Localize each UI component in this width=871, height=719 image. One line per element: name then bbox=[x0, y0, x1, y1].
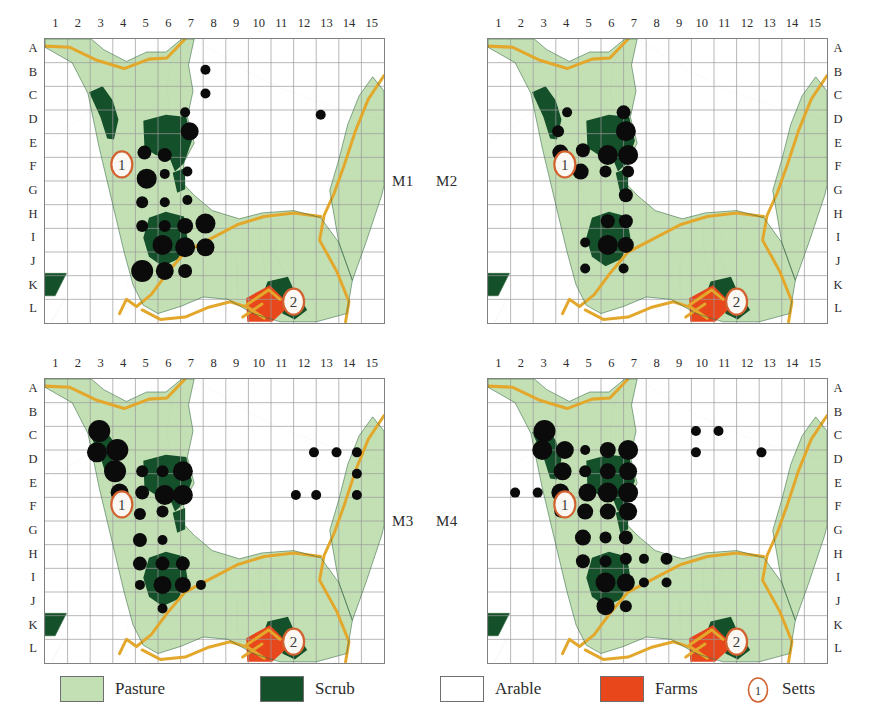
column-label: 13 bbox=[759, 356, 781, 371]
map-canvas: 12 bbox=[488, 379, 827, 663]
legend-label-arable: Arable bbox=[495, 679, 541, 699]
row-label: D bbox=[831, 452, 845, 467]
activity-dot bbox=[619, 188, 633, 202]
column-label: 6 bbox=[157, 16, 179, 31]
pasture-area bbox=[45, 379, 352, 662]
activity-dot bbox=[662, 578, 672, 588]
column-label: 12 bbox=[736, 356, 758, 371]
column-label: 13 bbox=[759, 16, 781, 31]
row-label: K bbox=[26, 278, 40, 293]
activity-dot bbox=[104, 460, 126, 482]
activity-dot bbox=[352, 469, 362, 479]
legend-label-pasture: Pasture bbox=[115, 679, 165, 699]
activity-dot bbox=[136, 465, 148, 477]
row-label: B bbox=[831, 405, 845, 420]
scrub-area bbox=[45, 273, 66, 295]
activity-dot bbox=[534, 420, 556, 442]
legend-label-farms: Farms bbox=[655, 679, 698, 699]
activity-dot bbox=[533, 488, 543, 498]
sett-number: 2 bbox=[733, 294, 741, 310]
legend-swatch-arable bbox=[440, 676, 484, 702]
column-label: 11 bbox=[713, 356, 735, 371]
row-label: E bbox=[26, 476, 40, 491]
column-label: 10 bbox=[248, 16, 270, 31]
activity-dot bbox=[176, 557, 190, 571]
legend-item-setts: 1Setts bbox=[745, 674, 815, 704]
activity-dot bbox=[691, 426, 701, 436]
column-label: 9 bbox=[668, 356, 690, 371]
activity-dot bbox=[135, 486, 149, 500]
column-label: 12 bbox=[736, 16, 758, 31]
pasture-area bbox=[45, 39, 352, 322]
activity-dot bbox=[580, 445, 590, 455]
column-label: 2 bbox=[510, 16, 532, 31]
row-label: D bbox=[26, 112, 40, 127]
activity-dot bbox=[600, 463, 616, 479]
activity-dot bbox=[156, 262, 174, 280]
activity-dot bbox=[598, 235, 618, 255]
column-label: 4 bbox=[112, 16, 134, 31]
column-label: 5 bbox=[135, 356, 157, 371]
activity-dot bbox=[157, 465, 169, 477]
activity-dot bbox=[552, 125, 564, 137]
column-label: 11 bbox=[713, 16, 735, 31]
column-label: 9 bbox=[225, 356, 247, 371]
column-label: 7 bbox=[623, 16, 645, 31]
column-label: 1 bbox=[487, 16, 509, 31]
legend-item-arable: Arable bbox=[440, 674, 541, 704]
activity-dot bbox=[600, 504, 616, 520]
activity-dot bbox=[639, 554, 649, 564]
field-boundary bbox=[495, 636, 510, 662]
row-label: L bbox=[831, 301, 845, 316]
column-label: 7 bbox=[623, 356, 645, 371]
legend-item-pasture: Pasture bbox=[60, 674, 165, 704]
column-label: 1 bbox=[44, 16, 66, 31]
row-label: E bbox=[831, 136, 845, 151]
pasture-area bbox=[488, 39, 795, 322]
panel-grid: 123456789101112131415ABCDEFGHIJKLM112123… bbox=[0, 0, 871, 660]
activity-dot bbox=[182, 195, 192, 205]
row-label: B bbox=[831, 65, 845, 80]
sett-number: 1 bbox=[118, 157, 126, 173]
field-boundary bbox=[52, 636, 67, 662]
activity-dot bbox=[617, 105, 631, 119]
map-frame: 12 bbox=[44, 38, 385, 324]
column-label: 9 bbox=[668, 16, 690, 31]
row-label: L bbox=[26, 301, 40, 316]
row-label: C bbox=[831, 88, 845, 103]
activity-dot bbox=[158, 148, 172, 162]
row-label: F bbox=[26, 499, 40, 514]
column-label: 7 bbox=[180, 356, 202, 371]
activity-dot bbox=[576, 143, 590, 157]
column-label: 1 bbox=[44, 356, 66, 371]
legend-swatch-pasture bbox=[60, 676, 104, 702]
column-label: 10 bbox=[691, 356, 713, 371]
row-label: K bbox=[831, 618, 845, 633]
activity-dot bbox=[156, 557, 170, 571]
activity-dot bbox=[175, 577, 191, 593]
activity-dot bbox=[181, 122, 199, 140]
row-label: E bbox=[831, 476, 845, 491]
activity-dot bbox=[195, 214, 215, 234]
activity-dot bbox=[332, 447, 342, 457]
activity-dot bbox=[639, 578, 649, 588]
activity-dot bbox=[311, 490, 321, 500]
map-canvas: 12 bbox=[488, 39, 827, 323]
activity-dot bbox=[196, 238, 214, 256]
column-label: 3 bbox=[533, 356, 555, 371]
activity-dot bbox=[661, 553, 673, 565]
activity-dot bbox=[136, 220, 148, 232]
row-label: F bbox=[831, 499, 845, 514]
row-label: G bbox=[26, 183, 40, 198]
activity-dot bbox=[620, 553, 632, 565]
activity-dot bbox=[618, 440, 638, 460]
activity-dot bbox=[196, 580, 206, 590]
panel-label-m3: M3 bbox=[392, 513, 414, 530]
scrub-area bbox=[488, 273, 509, 295]
row-label: F bbox=[831, 159, 845, 174]
column-label: 10 bbox=[248, 356, 270, 371]
activity-dot bbox=[134, 508, 146, 520]
activity-dot bbox=[175, 237, 195, 257]
legend-item-scrub: Scrub bbox=[260, 674, 355, 704]
column-label: 14 bbox=[338, 16, 360, 31]
